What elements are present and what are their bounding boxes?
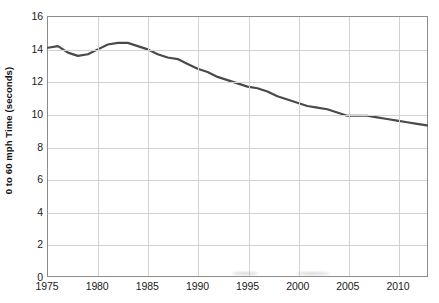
plot-area: [47, 16, 428, 277]
y-tick-label: 16: [7, 11, 43, 22]
y-axis-tick-labels: 0246810121416: [0, 0, 43, 303]
y-tick-label: 10: [7, 109, 43, 120]
x-tick-label: 2005: [325, 281, 371, 292]
gridline-vertical: [349, 17, 350, 276]
gridline-vertical: [299, 17, 300, 276]
x-tick-label: 2000: [275, 281, 321, 292]
gridline-horizontal: [48, 115, 427, 116]
gridline-vertical: [399, 17, 400, 276]
y-tick-label: 4: [7, 207, 43, 218]
gridline-vertical: [198, 17, 199, 276]
gridline-horizontal: [48, 213, 427, 214]
acceleration-time-line-chart: 0 to 60 mph Time (seconds) 0246810121416…: [0, 0, 439, 303]
gridline-vertical: [249, 17, 250, 276]
gridline-horizontal: [48, 82, 427, 83]
series-line: [48, 17, 427, 276]
y-tick-label: 12: [7, 76, 43, 87]
x-axis-tick-labels: 19751980198519901995200020052010: [0, 281, 439, 297]
y-tick-label: 2: [7, 239, 43, 250]
x-tick-label: 1975: [24, 281, 70, 292]
x-tick-label: 2010: [375, 281, 421, 292]
x-tick-label: 1995: [225, 281, 271, 292]
x-tick-label: 1985: [124, 281, 170, 292]
y-tick-label: 8: [7, 142, 43, 153]
gridline-vertical: [98, 17, 99, 276]
gridline-horizontal: [48, 180, 427, 181]
gridline-vertical: [148, 17, 149, 276]
gridline-horizontal: [48, 148, 427, 149]
x-tick-label: 1990: [174, 281, 220, 292]
gridline-horizontal: [48, 245, 427, 246]
x-tick-label: 1980: [74, 281, 120, 292]
scan-artifact: [232, 272, 258, 275]
y-tick-label: 14: [7, 44, 43, 55]
scan-artifact: [296, 272, 330, 275]
gridline-horizontal: [48, 50, 427, 51]
y-tick-label: 6: [7, 174, 43, 185]
